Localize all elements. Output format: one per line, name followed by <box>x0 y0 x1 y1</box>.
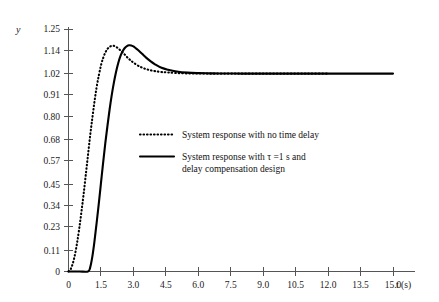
y-tick-label: 0.91 <box>43 90 60 100</box>
x-tick-label: 12.0 <box>320 280 337 290</box>
chart-figure: 00.110.230.340.450.570.680.800.911.021.1… <box>0 0 439 302</box>
y-axis-label: y <box>15 24 21 35</box>
x-tick-label: 10.5 <box>287 280 304 290</box>
y-tick-label: 1.02 <box>43 69 60 79</box>
chart-background <box>0 0 439 302</box>
y-tick-label: 0.23 <box>43 222 60 232</box>
legend-label-2: System response with τ =1 s and <box>182 152 306 162</box>
line-chart-canvas: 00.110.230.340.450.570.680.800.911.021.1… <box>0 0 439 302</box>
y-tick-label: 0.68 <box>43 135 60 145</box>
y-tick-label: 0.45 <box>43 180 60 190</box>
x-tick-label: 7.5 <box>225 280 237 290</box>
x-axis-label: t (s) <box>396 280 411 291</box>
y-tick-label: 0.57 <box>43 156 60 166</box>
x-tick-label: 1.5 <box>95 280 107 290</box>
x-tick-label: 13.5 <box>352 280 369 290</box>
x-tick-label: 0 <box>66 280 71 290</box>
y-tick-label: 0.80 <box>43 112 60 122</box>
legend-label-2: delay compensation design <box>182 164 285 174</box>
y-tick-label: 0.11 <box>44 246 61 256</box>
x-tick-label: 4.5 <box>160 280 172 290</box>
y-tick-label: 0 <box>55 267 60 277</box>
legend-label-1: System response with no time delay <box>182 130 319 140</box>
x-tick-label: 6.0 <box>192 280 204 290</box>
y-tick-label: 1.25 <box>43 24 60 34</box>
x-tick-label: 3.0 <box>127 280 139 290</box>
y-tick-label: 0.34 <box>43 201 60 211</box>
x-tick-label: 9.0 <box>257 280 269 290</box>
y-tick-label: 1.14 <box>43 46 60 56</box>
